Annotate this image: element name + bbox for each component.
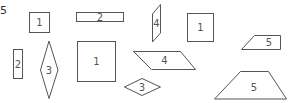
shape-label: 5 bbox=[251, 82, 257, 93]
shape-label: 4 bbox=[161, 55, 167, 66]
shape-label: 3 bbox=[139, 82, 145, 93]
shape-label: 1 bbox=[93, 56, 99, 67]
shape-square-medium: 1 bbox=[188, 14, 214, 42]
shape-label: 4 bbox=[153, 18, 159, 29]
question-number: 5 bbox=[0, 4, 7, 17]
shape-parallelogram-vertical: 4 bbox=[153, 5, 161, 43]
shape-square-small: 1 bbox=[30, 13, 50, 33]
shape-rectangle-vertical: 2 bbox=[14, 50, 23, 79]
shape-label: 2 bbox=[97, 12, 103, 23]
shape-parallelogram-wide: 4 bbox=[134, 52, 196, 70]
shape-trapezoid-large: 5 bbox=[215, 72, 287, 100]
shape-label: 1 bbox=[197, 22, 203, 33]
shape-rectangle-horizontal: 2 bbox=[77, 12, 124, 23]
shape-rhombus-tall: 3 bbox=[41, 41, 59, 99]
shape-label: 1 bbox=[36, 17, 42, 28]
shape-square-large: 1 bbox=[78, 42, 116, 82]
shape-rhombus-small: 3 bbox=[125, 79, 161, 96]
shape-label: 3 bbox=[46, 65, 52, 76]
shape-trapezoid-small: 5 bbox=[242, 36, 281, 50]
shape-label: 2 bbox=[15, 59, 21, 70]
shapes-diagram: 5 1 2 4 1 5 2 3 1 4 3 5 bbox=[0, 0, 290, 103]
shape-label: 5 bbox=[266, 37, 272, 48]
